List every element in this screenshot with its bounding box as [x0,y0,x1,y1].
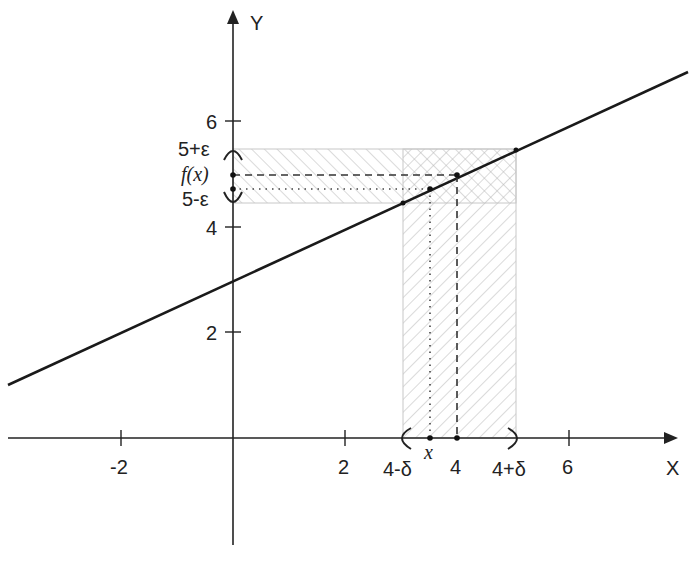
epsilon-delta-diagram: Y X -2 2 4 6 2 4 6 5+ε f(x) 5-ε 4-δ x 4+… [0,0,697,563]
function-line [8,72,688,385]
point-fx-axis [230,172,236,178]
vertical-delta-band [403,149,516,438]
x-sample-label: x [423,441,433,463]
point-x4-axis [454,435,460,441]
y-tick-label: 6 [206,111,217,133]
fx-label: f(x) [181,163,209,186]
y-tick-label: 2 [206,322,217,344]
delta-upper-label: 4+δ [492,458,526,480]
x-axis-label: X [666,457,679,479]
x-axis-arrow-icon [664,432,678,444]
point-upper-delta [514,148,519,153]
delta-lower-label: 4-δ [383,458,412,480]
point-limit [454,172,460,178]
point-lower-delta [401,201,406,206]
x-tick-label: 6 [562,456,573,478]
epsilon-upper-label: 5+ε [178,138,210,160]
x-tick-label: 2 [338,456,349,478]
epsilon-lower-label: 5-ε [182,188,209,210]
y-axis-arrow-icon [227,10,239,24]
y-axis-label: Y [250,12,263,34]
point-fx-sample-axis [230,186,236,192]
x-tick-label: -2 [110,456,128,478]
x-tick-label: 4 [450,456,461,478]
point-sample [427,186,433,192]
y-tick-label: 4 [206,217,217,239]
point-x-axis [427,435,433,441]
hatched-regions [233,149,516,438]
